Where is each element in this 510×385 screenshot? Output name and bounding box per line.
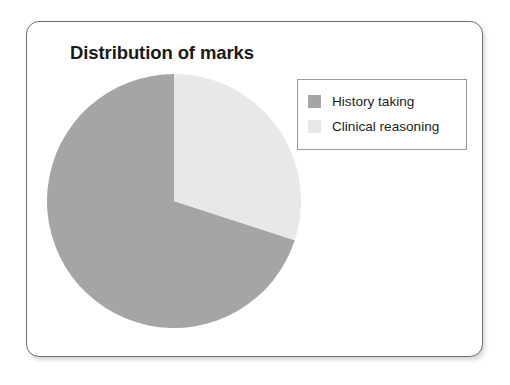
legend-swatch-icon <box>308 95 321 108</box>
legend-item-label: Clinical reasoning <box>332 120 439 134</box>
chart-card: Distribution of marks History taking Cli… <box>26 21 483 357</box>
pie-svg <box>46 73 302 329</box>
legend-item-label: History taking <box>332 95 414 109</box>
pie-slices <box>47 74 301 328</box>
legend-item-history-taking[interactable]: History taking <box>308 89 456 114</box>
chart-title: Distribution of marks <box>70 42 254 64</box>
chart-page: Distribution of marks History taking Cli… <box>0 0 510 385</box>
chart-legend: History taking Clinical reasoning <box>297 79 467 150</box>
legend-swatch-icon <box>308 120 321 133</box>
legend-item-clinical-reasoning[interactable]: Clinical reasoning <box>308 114 456 139</box>
pie-chart <box>46 73 302 329</box>
